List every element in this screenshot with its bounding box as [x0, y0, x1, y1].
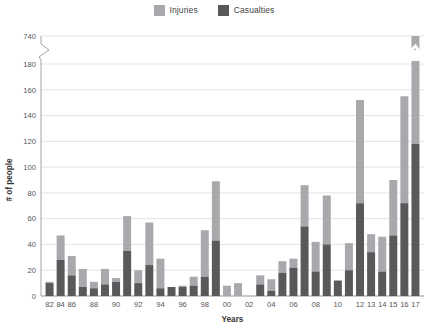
- x-tick-label-96: 96: [178, 300, 186, 309]
- bar-casualties-88: [90, 288, 98, 296]
- x-tick-label-08: 08: [311, 300, 319, 309]
- bar-injuries-92: [134, 270, 142, 283]
- bar-casualties-99: [212, 241, 220, 296]
- bar-injuries-98: [201, 230, 209, 276]
- x-tick-label-16: 16: [400, 300, 408, 309]
- bar-injuries-00: [223, 286, 231, 296]
- bar-injuries-89: [101, 269, 109, 284]
- bar-casualties-96: [179, 287, 187, 296]
- bar-casualties-16: [400, 203, 408, 296]
- y-tick-label: 0: [32, 292, 36, 301]
- bar-injuries-87: [79, 269, 87, 287]
- bar-casualties-92: [134, 283, 142, 296]
- bar-injuries-07: [301, 185, 309, 226]
- x-tick-label-13: 13: [367, 300, 375, 309]
- bar-casualties-86: [68, 275, 76, 296]
- x-tick-label-94: 94: [156, 300, 164, 309]
- x-tick-label-88: 88: [90, 300, 98, 309]
- bar-casualties-08: [312, 272, 320, 296]
- bar-casualties-14: [378, 272, 386, 296]
- bar-casualties-84: [57, 260, 65, 296]
- plot-area: 0204060801001201401601807408284868890929…: [0, 0, 428, 332]
- bar-casualties-17: [411, 144, 419, 296]
- bar-injuries-13: [367, 234, 375, 252]
- x-tick-label-90: 90: [112, 300, 120, 309]
- y-tick-label: 60: [28, 214, 36, 223]
- x-tick-label-86: 86: [67, 300, 75, 309]
- x-tick-label-04: 04: [267, 300, 275, 309]
- chart-container: Injuries Casualties 02040608010012014016…: [0, 0, 428, 332]
- y-axis-line: [39, 36, 49, 296]
- bar-injuries-05: [278, 261, 286, 273]
- y-tick-label: 180: [23, 60, 36, 69]
- bar-injuries-93: [145, 223, 153, 266]
- bar-casualties-95: [168, 287, 176, 296]
- y-tick-label: 40: [28, 240, 36, 249]
- bar-injuries-99: [212, 181, 220, 240]
- x-tick-label-17: 17: [411, 300, 419, 309]
- bar-injuries-17: [411, 61, 419, 144]
- bar-injuries-03: [256, 275, 264, 284]
- y-tick-label: 140: [23, 111, 36, 120]
- bar-casualties-98: [201, 277, 209, 296]
- x-tick-label-15: 15: [389, 300, 397, 309]
- bar-casualties-93: [145, 265, 153, 296]
- y-tick-label-740: 740: [23, 32, 36, 41]
- bar-casualties-09: [323, 244, 331, 296]
- x-tick-label-06: 06: [289, 300, 297, 309]
- x-tick-label-82: 82: [45, 300, 53, 309]
- bar-casualties-07: [301, 226, 309, 296]
- bar-casualties-10: [334, 281, 342, 296]
- bar-injuries-84: [57, 235, 65, 259]
- bar-casualties-94: [156, 288, 164, 296]
- x-tick-label-98: 98: [201, 300, 209, 309]
- y-tick-label: 80: [28, 189, 36, 198]
- bar-casualties-12: [356, 203, 364, 296]
- bar-injuries-08: [312, 242, 320, 272]
- bar-casualties-03: [256, 284, 264, 296]
- bar-injuries-12: [356, 100, 364, 203]
- x-tick-label-84: 84: [56, 300, 64, 309]
- bar-casualties-82: [46, 283, 54, 296]
- x-tick-label-14: 14: [378, 300, 386, 309]
- y-axis-title: # of people: [5, 158, 14, 202]
- x-tick-label-92: 92: [134, 300, 142, 309]
- bar-injuries-91: [123, 216, 131, 251]
- x-tick-label-00: 00: [223, 300, 231, 309]
- bar-casualties-15: [389, 235, 397, 296]
- x-tick-label-02: 02: [245, 300, 253, 309]
- bar-casualties-11: [345, 270, 353, 296]
- bar-casualties-89: [101, 284, 109, 296]
- bar-chart-svg: 0204060801001201401601807408284868890929…: [0, 0, 428, 332]
- bar-injuries-04: [267, 279, 275, 291]
- bar-injuries-01: [234, 283, 242, 296]
- bar-injuries-94: [156, 259, 164, 289]
- bar-injuries-90: [112, 278, 120, 282]
- x-tick-label-10: 10: [334, 300, 342, 309]
- bar-casualties-13: [367, 252, 375, 296]
- y-tick-label: 100: [23, 163, 36, 172]
- bar-injuries-06: [289, 259, 297, 268]
- x-axis-title: Years: [222, 315, 244, 324]
- bar-injuries-88: [90, 282, 98, 288]
- bar-injuries-14: [378, 237, 386, 272]
- bar-injuries-97: [190, 277, 198, 286]
- y-tick-label: 160: [23, 86, 36, 95]
- bar-injuries-11: [345, 243, 353, 270]
- bar-injuries-16: [400, 96, 408, 203]
- bar-casualties-06: [289, 268, 297, 296]
- y-tick-label: 20: [28, 266, 36, 275]
- bar-casualties-04: [267, 291, 275, 296]
- x-tick-label-12: 12: [356, 300, 364, 309]
- bar-casualties-91: [123, 251, 131, 296]
- bar-casualties-97: [190, 286, 198, 296]
- bar-casualties-87: [79, 287, 87, 296]
- bar-injuries-09: [323, 195, 331, 244]
- bar-injuries-96: [179, 286, 187, 287]
- bar-injuries-15: [389, 180, 397, 235]
- bar-casualties-90: [112, 282, 120, 296]
- bar-injuries-86: [68, 256, 76, 275]
- bar-injuries-82: [46, 282, 54, 283]
- bar-casualties-05: [278, 273, 286, 296]
- y-tick-label: 120: [23, 137, 36, 146]
